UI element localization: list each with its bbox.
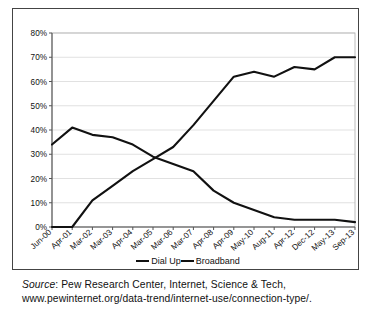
svg-text:70%: 70% [31, 53, 47, 62]
x-axis-tick-labels: Jun-00Apr-01Mar-02Mar-03Apr-04Mar-05Mar-… [29, 228, 357, 253]
source-label: Source [22, 279, 55, 290]
svg-text:May-13: May-13 [310, 228, 337, 253]
legend-swatch-dial-up [136, 260, 149, 262]
svg-text:Aug-11: Aug-11 [250, 228, 276, 252]
legend-label-broadband: Broadband [196, 256, 240, 266]
y-axis-tick-labels: 0%10%20%30%40%50%60%70%80% [31, 29, 52, 232]
line-chart: 0%10%20%30%40%50%60%70%80% Jun-00Apr-01M… [12, 8, 359, 270]
chart-figure: 0%10%20%30%40%50%60%70%80% Jun-00Apr-01M… [0, 0, 376, 312]
svg-text:50%: 50% [31, 102, 47, 111]
svg-text:30%: 30% [31, 150, 47, 159]
legend-label-dial-up: Dial Up [151, 256, 181, 266]
svg-text:Apr-08: Apr-08 [191, 228, 216, 251]
svg-text:10%: 10% [31, 199, 47, 208]
series-lines [52, 57, 355, 227]
legend-swatch-broadband [181, 260, 194, 262]
svg-text:40%: 40% [31, 126, 47, 135]
svg-text:80%: 80% [31, 29, 47, 38]
svg-text:20%: 20% [31, 175, 47, 184]
legend-item-broadband: Broadband [181, 256, 240, 266]
svg-text:60%: 60% [31, 78, 47, 87]
svg-text:May-10: May-10 [229, 228, 256, 253]
legend-item-dial-up: Dial Up [136, 256, 181, 266]
source-caption: Source: Pew Research Center, Internet, S… [22, 278, 366, 305]
source-line2: www.pewinternet.org/data-trend/internet-… [22, 293, 312, 304]
chart-legend: Dial Up Broadband [0, 256, 376, 266]
source-line1: : Pew Research Center, Internet, Science… [55, 279, 286, 290]
svg-text:Mar-03: Mar-03 [89, 228, 115, 252]
svg-text:Sep-13: Sep-13 [331, 228, 357, 253]
svg-text:Mar-07: Mar-07 [169, 228, 195, 252]
